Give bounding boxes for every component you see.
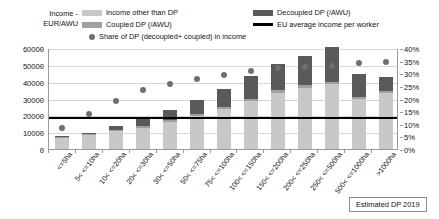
x-tick-mark xyxy=(183,150,184,153)
y-tick-label-right: 5% xyxy=(404,133,415,142)
x-tick-mark xyxy=(156,150,157,153)
x-tick-label: <=5ha xyxy=(55,150,75,172)
y-tick-mark-right xyxy=(400,112,403,113)
y-tick-mark-left xyxy=(41,150,44,151)
y-tick-mark-right xyxy=(400,100,403,101)
y-tick-label-left: 30000 xyxy=(0,95,44,104)
x-tick-mark xyxy=(344,150,345,153)
x-tick-mark xyxy=(317,150,318,153)
y-tick-mark-left xyxy=(41,133,44,134)
y-tick-label-right: 35% xyxy=(404,57,419,66)
y-tick-mark-left xyxy=(41,49,44,50)
y-tick-label-left: 40000 xyxy=(0,78,44,87)
x-tick-mark xyxy=(290,150,291,153)
y-tick-mark-left xyxy=(41,100,44,101)
x-tick-label: >1000ha xyxy=(373,150,397,178)
scatter-layer xyxy=(49,49,397,149)
y-tick-label-right: 40% xyxy=(404,45,419,54)
x-tick-mark xyxy=(129,150,130,153)
scatter-point-share-of-dp xyxy=(167,81,173,87)
y-tick-mark-right xyxy=(400,150,403,151)
scatter-point-share-of-dp xyxy=(113,98,119,104)
y-tick-label-right: 10% xyxy=(404,120,419,129)
y-tick-mark-left xyxy=(41,116,44,117)
y-tick-mark-right xyxy=(400,74,403,75)
scatter-point-share-of-dp xyxy=(383,59,389,65)
scatter-point-share-of-dp xyxy=(356,60,362,66)
scatter-point-share-of-dp xyxy=(329,63,335,69)
x-tick-label: 5< <=10ha xyxy=(73,150,101,183)
scatter-point-share-of-dp xyxy=(302,64,308,70)
plot-area xyxy=(48,49,398,150)
scatter-point-share-of-dp xyxy=(221,72,227,78)
x-tick-mark xyxy=(210,150,211,153)
scatter-point-share-of-dp xyxy=(275,65,281,71)
x-tick-mark xyxy=(102,150,103,153)
y-tick-label-right: 0% xyxy=(404,146,415,155)
scatter-point-share-of-dp xyxy=(140,87,146,93)
y-tick-label-left: 50000 xyxy=(0,61,44,70)
plot-wrapper: 0100002000030000400005000060000 0%5%10%1… xyxy=(0,0,439,219)
y-tick-label-right: 15% xyxy=(404,108,419,117)
scatter-point-share-of-dp xyxy=(248,68,254,74)
y-tick-label-left: 10000 xyxy=(0,129,44,138)
x-tick-mark xyxy=(75,150,76,153)
scatter-point-share-of-dp xyxy=(86,111,92,117)
y-tick-mark-right xyxy=(400,125,403,126)
y-tick-label-left: 20000 xyxy=(0,112,44,121)
x-axis-labels: <=5ha5< <=10ha10< <=20ha20< <=30ha30< <=… xyxy=(48,150,398,210)
y-tick-label-left: 0 xyxy=(0,146,44,155)
y-tick-mark-left xyxy=(41,66,44,67)
y-tick-label-left: 60000 xyxy=(0,45,44,54)
y-tick-label-right: 25% xyxy=(404,82,419,91)
y-tick-mark-right xyxy=(400,49,403,50)
x-tick-mark xyxy=(236,150,237,153)
y-tick-mark-left xyxy=(41,83,44,84)
y-tick-mark-right xyxy=(400,62,403,63)
x-tick-mark xyxy=(48,150,49,153)
y-axis-right: 0%5%10%15%20%25%30%35%40% xyxy=(400,49,439,150)
scatter-point-share-of-dp xyxy=(59,125,65,131)
y-tick-mark-right xyxy=(400,87,403,88)
y-tick-mark-right xyxy=(400,137,403,138)
y-axis-left: 0100002000030000400005000060000 xyxy=(0,49,44,150)
y-tick-label-right: 20% xyxy=(404,95,419,104)
x-tick-mark xyxy=(371,150,372,153)
estimated-dp-note: Estimated DP 2019 xyxy=(349,197,427,212)
chart-container: Income - EUR/AWU Income other than DP Co… xyxy=(0,0,439,219)
scatter-point-share-of-dp xyxy=(194,76,200,82)
y-tick-label-right: 30% xyxy=(404,70,419,79)
x-tick-mark xyxy=(263,150,264,153)
